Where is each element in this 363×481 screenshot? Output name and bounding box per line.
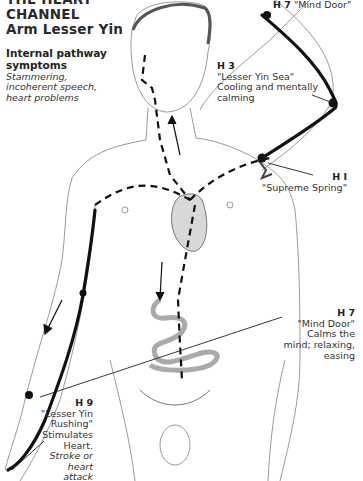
- point-code: H 7: [273, 0, 291, 10]
- title-line-1: CHANNEL: [6, 7, 123, 22]
- diagram-title: THE HEART CHANNEL Arm Lesser Yin: [6, 0, 123, 37]
- point-code: H 7: [337, 307, 355, 318]
- label-h9: H 9 "Lesser Yin Rushing" Stimulates Hear…: [40, 398, 93, 481]
- point-desc-3: easing: [283, 351, 355, 362]
- symptoms-text-3: heart problems: [6, 93, 107, 104]
- intestine: [150, 300, 217, 370]
- symptoms-heading-2: symptoms: [6, 60, 107, 72]
- label-h7-wrist: H 7 "Mind Door" Calms the mind; relaxing…: [283, 308, 355, 361]
- symptoms-heading-1: Internal pathway: [6, 48, 107, 60]
- point-code: H 9: [75, 397, 93, 408]
- point-desc-1: Stimulates: [40, 430, 93, 441]
- point-code: H 3: [217, 60, 235, 71]
- point-name: "Supreme Spring": [262, 183, 347, 194]
- point-desc-2: mind; relaxing,: [283, 340, 355, 351]
- point-warning-2: heart attack: [40, 462, 93, 481]
- internal-symptoms: Internal pathway symptoms Stammering, in…: [6, 48, 107, 103]
- point-name: "Mind Door": [294, 0, 352, 10]
- title-line-2: Arm Lesser Yin: [6, 22, 123, 37]
- label-h1: H I "Supreme Spring": [262, 172, 347, 193]
- label-h7-top: H 7 "Mind Door": [273, 0, 351, 11]
- label-h3: H 3 "Lesser Yin Sea" Cooling and mentall…: [217, 61, 318, 104]
- point-desc-2: calming: [217, 93, 318, 104]
- point-code: H I: [332, 171, 347, 182]
